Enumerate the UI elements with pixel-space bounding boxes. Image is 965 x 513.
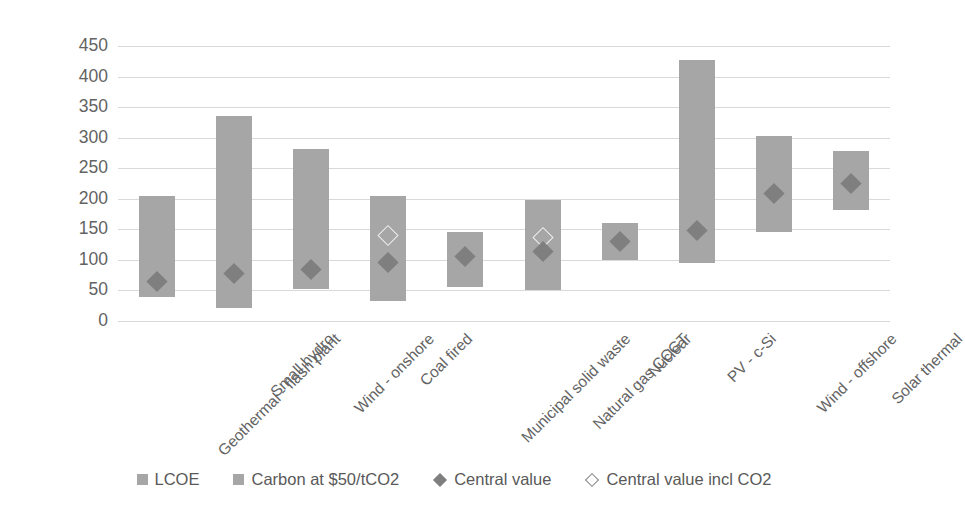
bar-group xyxy=(195,46,272,321)
y-axis-tick-label: 200 xyxy=(62,190,108,208)
legend-item[interactable]: LCOE xyxy=(137,470,200,489)
y-axis-tick-label: 400 xyxy=(62,68,108,86)
bar-group xyxy=(504,46,581,321)
y-axis-tick-label: 150 xyxy=(62,221,108,239)
y-axis: 450400350300250200150100500 xyxy=(62,46,108,321)
y-axis-tick-label: 450 xyxy=(62,37,108,55)
y-axis-tick-label: 300 xyxy=(62,129,108,147)
legend-label: Central value incl CO2 xyxy=(606,470,771,489)
bar-group xyxy=(813,46,890,321)
bar-group xyxy=(350,46,427,321)
x-axis-label: Wind - offshore xyxy=(814,330,900,416)
bar-group xyxy=(658,46,735,321)
x-axis-label: Small hydro xyxy=(267,330,337,400)
plot-area xyxy=(118,46,890,321)
legend-item[interactable]: Central value incl CO2 xyxy=(585,470,771,489)
x-axis-category-labels: Geothermal - flash plantSmall hydroWind … xyxy=(118,322,890,462)
square-swatch-icon xyxy=(137,474,148,485)
legend-label: Central value xyxy=(454,470,551,489)
filled-diamond-icon xyxy=(433,472,447,486)
y-axis-tick-label: 250 xyxy=(62,159,108,177)
x-axis-label: Municipal solid waste xyxy=(518,330,634,446)
y-axis-tick-label: 50 xyxy=(62,282,108,300)
square-swatch-icon xyxy=(233,474,244,485)
y-axis-tick-label: 350 xyxy=(62,98,108,116)
bar-group xyxy=(427,46,504,321)
legend-item[interactable]: Central value xyxy=(433,470,551,489)
y-axis-tick-label: 0 xyxy=(62,312,108,330)
hollow-diamond-icon xyxy=(585,472,599,486)
range-bar xyxy=(370,196,406,301)
bar-group xyxy=(272,46,349,321)
y-axis-tick-label: 100 xyxy=(62,251,108,269)
bar-group xyxy=(581,46,658,321)
legend-label: LCOE xyxy=(155,470,200,489)
legend-label: Carbon at $50/tCO2 xyxy=(251,470,399,489)
legend-item[interactable]: Carbon at $50/tCO2 xyxy=(233,470,399,489)
x-axis-label: Nuclear xyxy=(645,330,695,380)
chart-legend: LCOECarbon at $50/tCO2Central valueCentr… xyxy=(0,470,908,489)
bar-group xyxy=(736,46,813,321)
x-axis-label: PV - c-Si xyxy=(724,330,779,385)
bar-group xyxy=(118,46,195,321)
